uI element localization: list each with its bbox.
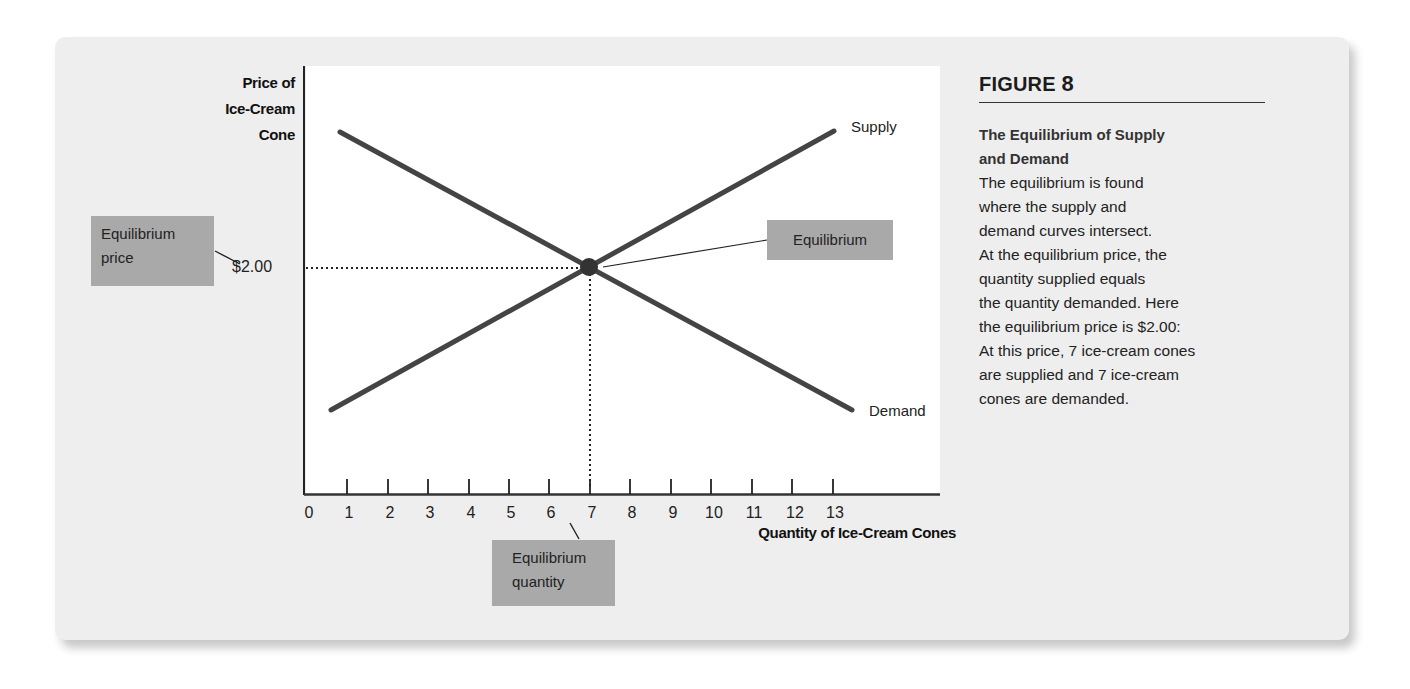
figure-divider	[979, 102, 1265, 103]
x-tick-label: 11	[739, 504, 769, 522]
figure-label: FIGURE 8	[979, 72, 1289, 96]
x-axis-title: Quantity of Ice-Cream Cones	[696, 524, 956, 541]
figure-title-line: and Demand	[979, 147, 1289, 171]
figure-body-line: the equilibrium price is $2.00:	[979, 315, 1289, 339]
x-tick-label: 10	[699, 504, 729, 522]
figure-body-line: demand curves intersect.	[979, 219, 1289, 243]
figure-body-line: where the supply and	[979, 195, 1289, 219]
y-title-line: Ice-Cream	[200, 96, 295, 122]
figure-body-line: The equilibrium is found	[979, 171, 1289, 195]
y-title-line: Cone	[200, 122, 295, 148]
demand-label: Demand	[869, 402, 926, 419]
figure-body-line: cones are demanded.	[979, 387, 1289, 411]
equilibrium-point	[580, 258, 598, 276]
figure-body-line: At the equilibrium price, the	[979, 243, 1289, 267]
x-tick-label: 3	[415, 504, 445, 522]
figure-body: The equilibrium is found where the suppl…	[979, 171, 1289, 411]
figure-body-line: the quantity demanded. Here	[979, 291, 1289, 315]
x-ticks	[347, 479, 833, 494]
x-tick-label: 9	[658, 504, 688, 522]
figure-body-line: quantity supplied equals	[979, 267, 1289, 291]
figure-title-line: The Equilibrium of Supply	[979, 123, 1289, 147]
figure-caption: FIGURE 8 The Equilibrium of Supply and D…	[979, 72, 1289, 411]
figure-label-number: 8	[1062, 71, 1074, 96]
x-tick-label: 4	[456, 504, 486, 522]
x-tick-label: 1	[334, 504, 364, 522]
x-tick-label: 13	[820, 504, 850, 522]
x-tick-label: 12	[780, 504, 810, 522]
equilibrium-price-callout: Equilibrium price	[91, 216, 214, 286]
callout-line: Equilibrium	[512, 546, 605, 570]
callout-line: Equilibrium	[101, 222, 204, 246]
x-tick-label: 0	[294, 504, 324, 522]
figure-body-line: At this price, 7 ice-cream cones	[979, 339, 1289, 363]
figure-body-line: are supplied and 7 ice-cream	[979, 363, 1289, 387]
y-axis-title: Price of Ice-Cream Cone	[200, 70, 295, 148]
equilibrium-quantity-callout: Equilibrium quantity	[492, 540, 615, 606]
equilibrium-callout-text: Equilibrium	[793, 231, 867, 248]
y-title-line: Price of	[200, 70, 295, 96]
eq-qty-leader	[570, 523, 579, 539]
figure-label-prefix: FIGURE	[979, 73, 1056, 95]
price-tick-label: $2.00	[232, 258, 272, 276]
figure-title: The Equilibrium of Supply and Demand	[979, 123, 1289, 171]
x-tick-label: 5	[496, 504, 526, 522]
callout-line: price	[101, 246, 204, 270]
supply-label: Supply	[851, 118, 897, 135]
callout-line: quantity	[512, 570, 605, 594]
x-tick-label: 7	[577, 504, 607, 522]
equilibrium-callout: Equilibrium	[767, 220, 893, 260]
x-tick-label: 2	[375, 504, 405, 522]
x-tick-label: 8	[617, 504, 647, 522]
x-tick-label: 6	[536, 504, 566, 522]
